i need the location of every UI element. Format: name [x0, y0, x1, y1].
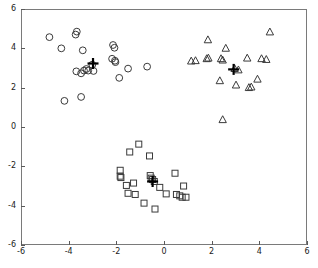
point-circle: [116, 74, 123, 81]
series-cluster-1: [46, 28, 151, 104]
x-tick-label: -6: [7, 248, 35, 256]
x-tick-label: 6: [293, 248, 318, 256]
point-triangle: [254, 75, 261, 82]
point-square: [125, 190, 131, 196]
x-tick-mark: [212, 241, 213, 245]
x-tick-mark: [21, 241, 22, 245]
point-triangle: [222, 44, 229, 51]
x-tick-label: 2: [198, 248, 226, 256]
y-tick-label: 2: [0, 84, 16, 92]
point-square: [163, 191, 169, 197]
point-square: [157, 184, 163, 190]
point-square: [141, 200, 147, 206]
x-tick-mark: [259, 241, 260, 245]
scatter-marks: [22, 10, 306, 244]
point-circle: [61, 97, 68, 104]
point-square: [172, 170, 178, 176]
point-square: [127, 149, 133, 155]
x-tick-mark: [307, 241, 308, 245]
point-square: [181, 183, 187, 189]
y-tick-mark: [21, 127, 25, 128]
point-circle: [83, 66, 90, 73]
point-square: [136, 141, 142, 147]
y-tick-label: -2: [0, 162, 16, 170]
y-tick-label: 4: [0, 44, 16, 52]
y-tick-mark: [21, 166, 25, 167]
x-tick-label: 0: [150, 248, 178, 256]
y-tick-mark: [21, 9, 25, 10]
x-tick-mark: [164, 241, 165, 245]
series-cluster-2: [188, 28, 274, 123]
x-tick-label: 4: [245, 248, 273, 256]
point-circle: [46, 34, 53, 41]
plot-area: [21, 9, 307, 245]
point-square: [147, 153, 153, 159]
point-square: [183, 194, 189, 200]
point-circle: [144, 63, 151, 70]
x-tick-mark: [116, 241, 117, 245]
y-tick-mark: [21, 206, 25, 207]
point-circle: [125, 65, 132, 72]
point-triangle: [216, 77, 223, 84]
y-tick-label: 6: [0, 5, 16, 13]
point-square: [152, 206, 158, 212]
point-triangle: [244, 54, 251, 61]
point-triangle: [266, 28, 273, 35]
x-tick-label: -2: [102, 248, 130, 256]
y-tick-mark: [21, 245, 25, 246]
point-square: [117, 167, 123, 173]
point-square: [131, 180, 137, 186]
series-cluster-3: [117, 141, 189, 212]
y-tick-label: -4: [0, 202, 16, 210]
point-square: [132, 191, 138, 197]
data-layer: [22, 10, 306, 244]
x-tick-label: -4: [55, 248, 83, 256]
y-tick-label: 0: [0, 123, 16, 131]
point-circle: [78, 94, 85, 101]
x-tick-mark: [69, 241, 70, 245]
y-tick-mark: [21, 48, 25, 49]
point-circle: [79, 47, 86, 54]
point-circle: [58, 45, 65, 52]
point-triangle: [232, 81, 239, 88]
point-square: [123, 182, 129, 188]
point-triangle: [219, 116, 226, 123]
y-tick-mark: [21, 88, 25, 89]
point-triangle: [204, 36, 211, 43]
cluster-scatter-figure: -6-4-20246 -6-4-20246: [0, 0, 318, 268]
